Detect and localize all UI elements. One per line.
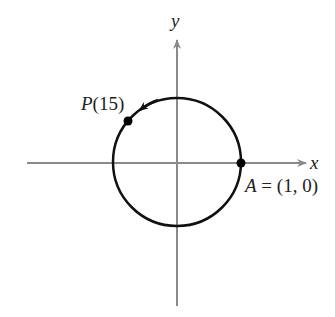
point-a-coords: = (1, 0) [257, 175, 318, 197]
point-a-label: A = (1, 0) [243, 175, 318, 197]
point-p-label: P(15) [80, 93, 124, 115]
point-p-name: P [80, 93, 93, 114]
point-a [237, 159, 246, 168]
direction-arrow-icon [140, 100, 158, 110]
unit-circle-diagram: x y A = (1, 0) P(15) [0, 0, 335, 317]
x-axis-label: x [309, 152, 319, 173]
y-axis-label: y [169, 10, 180, 31]
point-p-arg: (15) [93, 93, 125, 115]
point-a-name: A [243, 175, 257, 196]
point-p [124, 117, 133, 126]
